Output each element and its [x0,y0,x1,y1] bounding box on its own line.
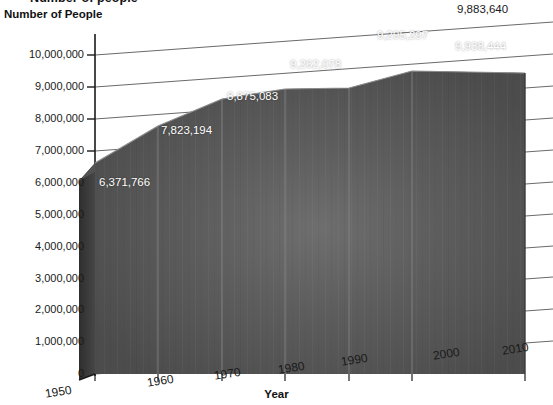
data-label-2000: 9,938,444 [455,40,506,52]
data-label-1970: 8,875,083 [227,90,278,102]
chart-container: Number of people Number of People Year [0,0,553,405]
y-tick-label: 3,000,000 [2,272,84,284]
data-label-1960: 7,823,194 [161,124,212,136]
y-tick-label: 10,000,000 [2,48,84,60]
y-tick-label: 9,000,000 [2,80,84,92]
y-tick-label: 6,000,000 [2,176,84,188]
data-label-2010: 9,883,640 [457,3,508,15]
y-tick-label: 2,000,000 [2,303,84,315]
y-tick-label: 0 [2,367,84,379]
data-label-1990: 9,295,297 [377,29,428,41]
y-tick-label: 8,000,000 [2,112,84,124]
y-tick-label: 7,000,000 [2,144,84,156]
data-label-1980: 9,262,078 [290,58,341,70]
data-label-1950: 6,371,766 [99,176,150,188]
y-tick-label: 4,000,000 [2,240,84,252]
y-tick-label: 1,000,000 [2,335,84,347]
y-tick-label: 5,000,000 [2,208,84,220]
